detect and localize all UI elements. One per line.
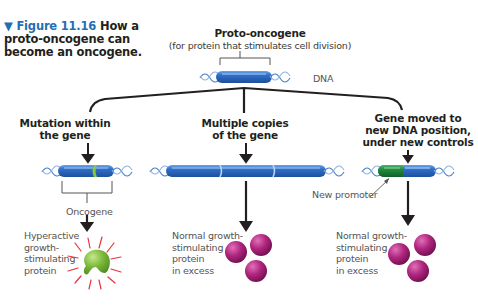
top-dna bbox=[200, 71, 290, 83]
branch-tree bbox=[90, 88, 402, 113]
hyperactive-protein-icon bbox=[68, 237, 121, 289]
branch-1-gene bbox=[42, 165, 132, 177]
excess-protein-icon-2 bbox=[225, 234, 272, 282]
branch-2-gene bbox=[150, 165, 344, 177]
diagram-graphics bbox=[0, 0, 478, 306]
oncogene-bracket bbox=[62, 181, 112, 203]
excess-protein-icon-3 bbox=[388, 234, 436, 282]
proto-oncogene-bracket bbox=[220, 51, 270, 65]
